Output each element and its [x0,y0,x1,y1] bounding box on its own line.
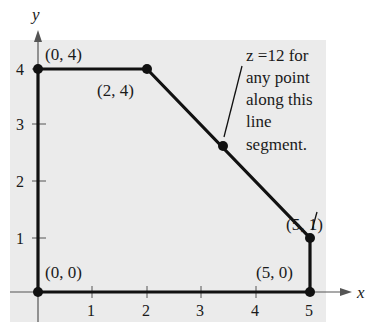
svg-text:line: line [246,112,272,131]
x-tick-label: 3 [196,302,204,319]
svg-text:any point: any point [246,68,310,87]
x-tick-label: 5 [305,302,313,319]
x-axis-label: x [356,283,365,302]
x-axis-arrow-icon [340,288,352,296]
svg-text:along this: along this [246,90,313,109]
annotation: z =12 for any point along this line segm… [246,46,313,154]
y-tick-label: 4 [16,61,24,78]
y-tick-label: 3 [16,116,24,133]
x-tick-label: 1 [87,302,95,319]
vertex-label: (5, 1) [286,215,323,234]
x-tick-label: 2 [142,302,150,319]
vertex-label: (5, 0) [256,263,293,282]
vertex-label: (0, 4) [45,45,82,64]
vertex-label: (2, 4) [97,81,134,100]
y-axis-label: y [30,5,40,24]
vertex-label: (0, 0) [45,263,82,282]
highlight-point [218,141,228,151]
x-tick-label: 4 [251,302,259,319]
svg-text:segment.: segment. [246,135,307,154]
svg-text:z =12 for: z =12 for [246,46,309,65]
y-tick-label: 2 [16,173,24,190]
y-tick-label: 1 [16,230,24,247]
y-axis-arrow-icon [34,30,42,42]
chart-canvas: x y 1 2 3 4 5 1 2 3 4 (0, 4) (2, 4) (5, … [0,0,370,336]
